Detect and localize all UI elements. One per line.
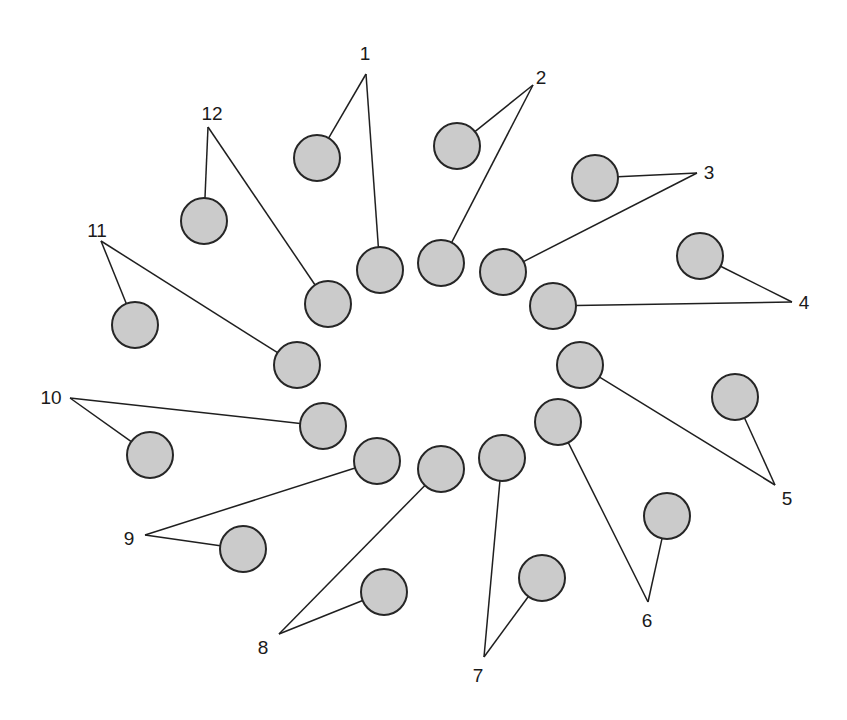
circle-8-outer <box>361 569 407 615</box>
pair-label-12: 12 <box>201 103 222 124</box>
circle-6-inner <box>535 399 581 445</box>
connector-line-1-inner <box>366 74 378 247</box>
connector-line-9-outer <box>145 535 220 546</box>
circle-9-outer <box>220 526 266 572</box>
pair-label-8: 8 <box>258 637 269 658</box>
pair-label-10: 10 <box>40 387 61 408</box>
connector-line-8-outer <box>279 601 363 634</box>
circle-6-outer <box>644 493 690 539</box>
pair-label-6: 6 <box>642 610 653 631</box>
circle-4-outer <box>677 233 723 279</box>
circle-10-outer <box>127 432 173 478</box>
pair-label-3: 3 <box>704 162 715 183</box>
circle-3-inner <box>480 249 526 295</box>
circle-5-inner <box>557 342 603 388</box>
circle-3-outer <box>572 155 618 201</box>
connector-line-4-inner <box>576 302 792 306</box>
circle-2-outer <box>434 123 480 169</box>
connector-line-7-outer <box>484 597 528 657</box>
pair-label-9: 9 <box>124 528 135 549</box>
circle-12-inner <box>305 281 351 327</box>
pair-label-11: 11 <box>87 220 107 241</box>
circle-8-inner <box>418 446 464 492</box>
connector-line-6-inner <box>568 443 648 602</box>
connector-line-6-outer <box>648 538 662 602</box>
circle-11-inner <box>274 342 320 388</box>
connector-line-8-inner <box>279 485 425 634</box>
connector-line-9-inner <box>145 468 355 535</box>
pair-label-5: 5 <box>782 488 793 509</box>
circle-12-outer <box>181 198 227 244</box>
connector-line-7-inner <box>484 481 500 657</box>
connector-line-11-outer <box>101 241 126 304</box>
connector-line-1-outer <box>329 74 366 138</box>
pair-label-1: 1 <box>360 43 371 64</box>
connector-line-10-inner <box>70 398 300 423</box>
circle-11-outer <box>112 302 158 348</box>
connector-line-4-outer <box>721 266 792 302</box>
pair-label-7: 7 <box>473 665 484 686</box>
connector-line-12-outer <box>205 127 208 198</box>
connector-line-10-outer <box>70 398 131 442</box>
pair-label-4: 4 <box>799 292 810 313</box>
circle-10-inner <box>300 403 346 449</box>
labels: 123456789101112 <box>40 43 809 686</box>
circle-7-outer <box>519 555 565 601</box>
connector-lines <box>70 74 792 657</box>
connector-line-3-outer <box>618 173 697 177</box>
pair-label-2: 2 <box>536 67 547 88</box>
circle-9-inner <box>354 438 400 484</box>
circle-7-inner <box>479 435 525 481</box>
circle-1-inner <box>357 247 403 293</box>
connector-line-2-outer <box>475 85 533 132</box>
circle-4-inner <box>530 283 576 329</box>
circle-1-outer <box>294 135 340 181</box>
circle-5-outer <box>712 374 758 420</box>
spiral-pair-diagram: 123456789101112 <box>0 0 847 720</box>
circle-2-inner <box>418 240 464 286</box>
